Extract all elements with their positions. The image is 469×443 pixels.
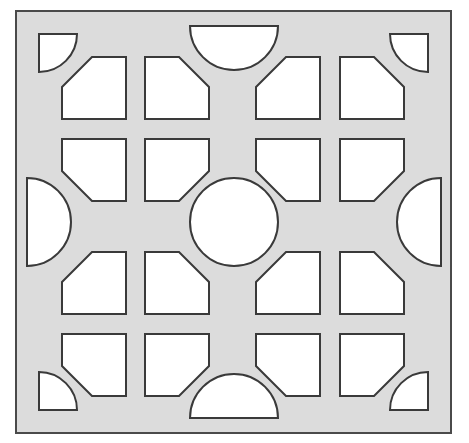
- figure-root: [0, 0, 469, 443]
- breeze-block-tile-diagram: [0, 0, 469, 443]
- center-circle-opening: [190, 178, 278, 266]
